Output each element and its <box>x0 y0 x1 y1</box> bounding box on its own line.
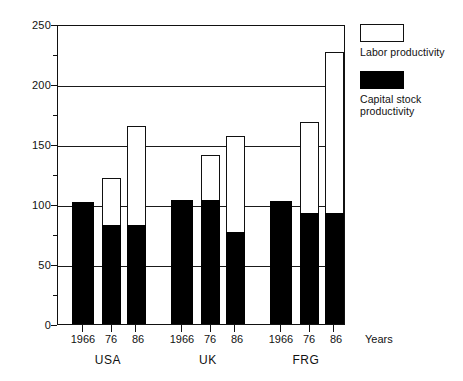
x-tick-label-usa-76: 76 <box>99 334 123 345</box>
x-tick-mark-frg-76 <box>309 325 310 332</box>
x-tick-mark-usa-76 <box>111 325 112 332</box>
x-tick-label-frg-76: 76 <box>297 334 321 345</box>
x-tick-mark-frg-86 <box>333 325 334 332</box>
x-tick-label-uk-1966: 1966 <box>162 334 202 345</box>
chart-legend: Labor productivity Capital stock product… <box>360 24 460 130</box>
x-tick-label-usa-1966: 1966 <box>63 334 103 345</box>
bar-usa-1966 <box>72 204 94 324</box>
x-tick-label-frg-86: 86 <box>324 334 348 345</box>
y-tick-mark-0 <box>51 325 57 326</box>
bar-uk-1966 <box>171 202 193 324</box>
x-tick-label-usa-86: 86 <box>126 334 150 345</box>
group-label-frg: FRG <box>278 354 334 366</box>
plot-area <box>57 25 345 325</box>
bar-frg-1966 <box>270 203 292 324</box>
bar-fill-frg-76 <box>300 213 320 324</box>
y-tick-label-200: 200 <box>25 80 51 91</box>
x-axis-title: Years <box>365 334 393 345</box>
bar-fill-uk-1966 <box>171 200 194 324</box>
x-tick-label-uk-86: 86 <box>225 334 249 345</box>
bar-chart: 250 200 150 100 50 0 <box>0 0 463 381</box>
bar-fill-frg-86 <box>325 213 345 324</box>
group-label-usa: USA <box>80 354 136 366</box>
bar-usa-86 <box>127 126 146 324</box>
y-tick-label-150: 150 <box>25 140 51 151</box>
bar-frg-86 <box>325 52 344 324</box>
y-tick-label-50: 50 <box>25 260 51 271</box>
bar-fill-uk-76 <box>201 200 221 324</box>
x-tick-label-uk-76: 76 <box>198 334 222 345</box>
y-tick-label-0: 0 <box>25 320 51 331</box>
bar-usa-76 <box>102 178 121 324</box>
group-label-uk: UK <box>180 354 236 366</box>
x-tick-mark-uk-1966 <box>181 325 182 332</box>
legend-swatch-outline <box>360 24 404 42</box>
x-tick-mark-uk-86 <box>234 325 235 332</box>
legend-item-capital-stock-productivity: Capital stock productivity <box>360 71 460 118</box>
bar-fill-usa-86 <box>127 225 147 324</box>
bar-uk-86 <box>226 136 245 324</box>
y-tick-label-250: 250 <box>25 20 51 31</box>
bar-fill-uk-86 <box>226 232 246 324</box>
x-tick-mark-usa-86 <box>135 325 136 332</box>
x-tick-label-frg-1966: 1966 <box>261 334 301 345</box>
x-tick-mark-usa-1966 <box>82 325 83 332</box>
bar-fill-usa-1966 <box>72 202 95 324</box>
y-tick-label-100: 100 <box>25 200 51 211</box>
x-tick-mark-frg-1966 <box>280 325 281 332</box>
bar-uk-76 <box>201 155 220 324</box>
legend-item-labor-productivity: Labor productivity <box>360 24 460 59</box>
bar-frg-76 <box>300 122 319 324</box>
x-tick-mark-uk-76 <box>210 325 211 332</box>
gridline-200 <box>58 86 344 87</box>
legend-label-capital-stock-productivity: Capital stock productivity <box>360 93 460 118</box>
legend-label-labor-productivity: Labor productivity <box>360 46 460 59</box>
bar-fill-frg-1966 <box>270 201 293 324</box>
bar-fill-usa-76 <box>102 225 122 324</box>
legend-swatch-solid <box>360 71 404 89</box>
